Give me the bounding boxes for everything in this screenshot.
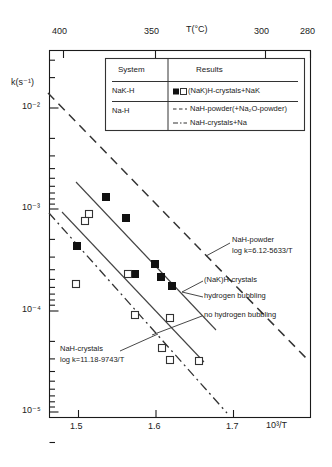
- annotation-no-hydrogen-bubbling: no hydrogen bubbling: [204, 311, 276, 319]
- fit-line-nakh-upper: [76, 182, 216, 330]
- annotation-hydrogen-bubbling: hydrogen bubbling: [204, 292, 266, 300]
- x-tick-label-1.6: 1.6: [148, 422, 161, 431]
- y-axis-ticks: [50, 60, 59, 442]
- annotation-nah-crystals-line1: NaH-crystals: [60, 345, 103, 353]
- annotation-nah-powder-line1: NaH-powder: [232, 236, 274, 244]
- y-tick-label-1e-4: 10⁻⁴: [22, 305, 41, 314]
- x-axis-title: 10³/T: [266, 421, 287, 430]
- y-tick-label-1e-3: 10⁻³: [22, 203, 40, 212]
- plot-canvas: [0, 0, 332, 467]
- x-tick-label-1.5: 1.5: [70, 422, 83, 431]
- arrhenius-plot-figure: 400 350 300 280 T(°C) k(s⁻¹) 10⁻² 10⁻³ 1…: [0, 0, 332, 467]
- y-tick-label-1e-5: 10⁻⁵: [22, 406, 41, 415]
- annotation-nah-powder-line2: log k=6.12-5633/T: [232, 247, 293, 255]
- top-axis-title: T(°C): [186, 25, 208, 34]
- top-tick-label-400: 400: [52, 27, 67, 36]
- y-tick-label-1e-2: 10⁻²: [22, 102, 40, 111]
- top-tick-label-280: 280: [300, 27, 315, 36]
- x-tick-label-1.7: 1.7: [226, 422, 239, 431]
- annotation-nakh-crystals: (NaK)H-crystals: [204, 276, 257, 284]
- legend-row-system-na-h: Na-H: [112, 107, 130, 115]
- top-tick-label-300: 300: [254, 27, 269, 36]
- fit-line-nah-powder: [48, 93, 308, 360]
- legend-row-result-nah-powder: NaH-powder(+Na₂O-powder): [190, 105, 287, 113]
- fit-line-nakh-lower: [62, 212, 204, 362]
- legend-header-results: Results: [196, 66, 223, 74]
- top-axis-ticks: [64, 51, 311, 59]
- y-axis-title: k(s⁻¹): [11, 78, 34, 87]
- legend-header-system: System: [118, 66, 145, 74]
- series-open-squares: [73, 211, 203, 365]
- top-tick-label-350: 350: [144, 27, 159, 36]
- annotation-nah-crystals-line2: log k=11.18-9743/T: [60, 356, 124, 364]
- legend-row-result-nah-crystals: NaH-crystals+Na: [190, 119, 247, 127]
- legend-row-result-nakh-crystals: (NaK)H-crystals+NaK: [188, 87, 260, 95]
- bottom-axis-ticks: [79, 410, 234, 418]
- legend-row-system-nak-h: NaK-H: [112, 87, 135, 95]
